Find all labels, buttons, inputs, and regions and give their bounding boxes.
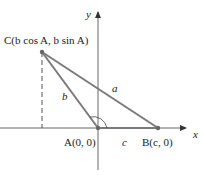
side-b-label: b xyxy=(62,90,68,102)
x-axis-label: x xyxy=(192,128,198,140)
point-A xyxy=(96,126,100,130)
side-a xyxy=(42,52,158,128)
triangle-diagram: y x C(b cos A, b sin A) A(0, 0) B(c, 0) … xyxy=(0,0,203,175)
point-C-label: C(b cos A, b sin A) xyxy=(4,34,89,47)
y-axis-label: y xyxy=(85,8,91,20)
point-A-label: A(0, 0) xyxy=(64,136,96,149)
point-B-label: B(c, 0) xyxy=(142,136,173,149)
point-B xyxy=(156,126,160,130)
side-b xyxy=(42,52,98,128)
point-C xyxy=(40,50,44,54)
side-c-label: c xyxy=(122,136,127,148)
side-a-label: a xyxy=(112,82,118,94)
